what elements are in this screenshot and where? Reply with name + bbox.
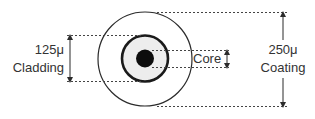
cladding-name-label: Cladding (13, 60, 64, 76)
core-name-label: Core (193, 51, 221, 67)
coating-size-label: 250μ (258, 42, 308, 58)
core-circle (136, 50, 154, 68)
cladding-size-label: 125μ (35, 42, 64, 58)
coating-name-label: Coating (258, 60, 308, 76)
